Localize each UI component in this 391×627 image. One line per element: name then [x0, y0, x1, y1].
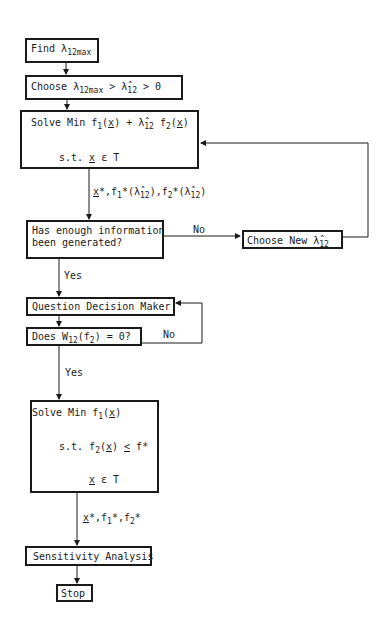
enough-information-decision-box: Has enough information been generated?: [26, 220, 164, 259]
node-text: Does W: [32, 331, 68, 342]
label-text: *,f: [99, 186, 117, 197]
node-text: been generated?: [32, 237, 158, 249]
node-text: s.t.: [59, 152, 89, 163]
node-subscript: 12: [144, 122, 154, 131]
no-label: No: [193, 224, 205, 235]
node-text: > 0: [137, 81, 161, 92]
node-text: > λ̂: [103, 81, 127, 92]
find-lambda-max-box: Find λ12max: [25, 38, 99, 63]
choose-new-lambda-box: Choose New λ̂12: [242, 230, 343, 249]
node-text: Choose New λ̂: [247, 235, 319, 246]
label-text: *,f: [112, 512, 130, 523]
node-subscript: 12: [319, 240, 329, 249]
constraint-line: s.t. f2(x) < f*: [59, 441, 148, 453]
node-text: ) = 0?: [95, 331, 131, 342]
label-text: ),f: [150, 186, 168, 197]
label-text: *: [135, 512, 141, 523]
constraint-line: s.t. x ε T: [59, 152, 119, 164]
node-text: s.t. f: [59, 441, 95, 452]
node-text: Solve Min f: [31, 117, 97, 128]
solve-weighted-box: Solve Min f1(x) + λ̂12 f2(x) s.t. x ε T: [20, 110, 199, 169]
node-text: (f: [78, 331, 90, 342]
label-text: *(λ̂: [122, 186, 140, 197]
question-decision-maker-box: Question Decision Maker: [26, 297, 175, 316]
node-text: ): [112, 441, 124, 452]
choose-lambda-box: Choose λ12max > λ̂12 > 0: [25, 75, 183, 100]
node-text: Stop: [61, 588, 85, 599]
node-subscript: 12max: [67, 48, 91, 57]
set-constraint-line: x ε T: [89, 474, 119, 486]
solve-constrained-box: Solve Min f1(x) s.t. f2(x) < f* x ε T: [30, 400, 159, 493]
objective-line: Solve Min f1(x): [32, 407, 121, 419]
node-text: Has enough information: [32, 225, 158, 237]
node-text: ): [115, 407, 121, 418]
final-solution-label: x*,f1*,f2*: [83, 512, 141, 523]
yes-label: Yes: [64, 270, 82, 281]
node-text: ε T: [95, 152, 119, 163]
yes-label: Yes: [65, 367, 83, 378]
sensitivity-analysis-box: Sensitivity Analysis: [25, 546, 152, 566]
node-subscript: 12: [68, 336, 78, 345]
label-text: *,f: [89, 512, 107, 523]
objective-line: Solve Min f1(x) + λ̂12 f2(x): [31, 117, 189, 129]
node-text: f*: [130, 441, 148, 452]
node-text: f: [154, 117, 166, 128]
node-text: ): [183, 117, 189, 128]
label-text: ): [200, 186, 206, 197]
node-text: ε T: [95, 474, 119, 485]
node-text: Question Decision Maker: [32, 301, 170, 312]
node-text: Solve Min f: [32, 407, 98, 418]
node-subscript: 12: [127, 86, 137, 95]
no-label: No: [163, 329, 175, 340]
stop-box: Stop: [56, 584, 93, 602]
node-text: Sensitivity Analysis: [33, 551, 153, 562]
node-text: Find λ: [31, 43, 67, 54]
label-text: *(λ̂: [173, 186, 191, 197]
does-w12-zero-decision-box: Does W12(f2) = 0?: [26, 327, 142, 346]
node-text: ) + λ̂: [114, 117, 144, 128]
label-subscript: 12: [140, 191, 150, 200]
node-subscript: 12max: [79, 86, 103, 95]
node-text: Choose λ: [31, 81, 79, 92]
solution-output-label: x*,f1*(λ̂12),f2*(λ̂12): [93, 186, 206, 197]
label-subscript: 12: [191, 191, 201, 200]
